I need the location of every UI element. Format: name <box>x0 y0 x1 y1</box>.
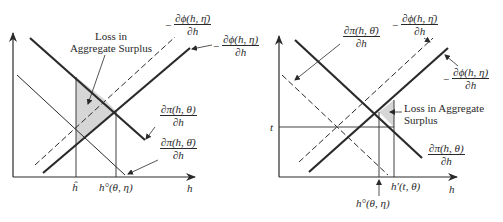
left-tick-h-opt: h°(θ, η) <box>99 181 133 193</box>
right-curve-pi-theta-bar <box>282 75 388 175</box>
right-curve-phi-eta-bar <box>299 38 433 162</box>
left-pi-theta-bar-arrow <box>128 160 158 174</box>
left-loss-annotation-line2: Aggregate Surplus <box>66 42 156 54</box>
right-tick-h-prime: h′(t, θ) <box>391 180 420 192</box>
minus-sign: − <box>165 19 171 31</box>
left-label-phi-eta-bar: − ∂ϕ(h, η̄) ∂h <box>165 12 211 37</box>
right-label-phi-eta: − ∂ϕ(h, η) ∂h <box>443 66 489 91</box>
numerator: ∂π(h, θ) <box>160 103 197 116</box>
numerator: ∂π(h, θ̄) <box>160 136 197 149</box>
left-curve-pi-theta-bar <box>17 75 125 175</box>
right-tick-h-opt: h°(θ, η) <box>356 197 390 209</box>
right-phi-eta-arrow <box>445 55 458 66</box>
denominator: ∂h <box>173 149 184 161</box>
numerator: ∂ϕ(h, η) <box>222 33 259 46</box>
left-x-axis-label: h <box>187 182 193 194</box>
numerator: ∂ϕ(h, η̄) <box>401 12 438 25</box>
denominator: ∂h <box>414 25 425 37</box>
minus-sign: − <box>392 19 398 31</box>
right-loss-annotation: Loss in Aggregate Surplus <box>404 102 484 126</box>
right-loss-annotation-line2: Surplus <box>404 114 484 126</box>
numerator: ∂ϕ(h, η̄) <box>174 12 211 25</box>
denominator: ∂h <box>187 25 198 37</box>
denominator: ∂h <box>173 116 184 128</box>
left-label-pi-theta: ∂π(h, θ) ∂h <box>160 103 197 128</box>
denominator: ∂h <box>235 46 246 58</box>
right-label-pi-theta-bar: ∂π(h, θ̄) ∂h <box>343 24 380 49</box>
numerator: ∂π(h, θ) <box>428 142 465 155</box>
minus-sign: − <box>443 73 449 85</box>
right-loss-annotation-line1: Loss in Aggregate <box>404 102 484 114</box>
left-label-pi-theta-bar: ∂π(h, θ̄) ∂h <box>160 136 197 161</box>
denominator: ∂h <box>465 79 476 91</box>
left-pi-theta-arrow <box>146 127 155 139</box>
left-loss-annotation-line1: Loss in <box>66 30 156 42</box>
numerator: ∂ϕ(h, η) <box>452 66 489 79</box>
left-phi-eta-arrow <box>192 45 212 49</box>
left-loss-annotation: Loss in Aggregate Surplus <box>66 30 156 54</box>
right-phi-eta-bar-arrow <box>424 38 430 42</box>
left-tick-h-hat: ĥ <box>72 181 78 193</box>
right-tick-t: t <box>270 121 273 133</box>
denominator: ∂h <box>441 155 452 167</box>
denominator: ∂h <box>356 37 367 49</box>
minus-sign: − <box>213 40 219 52</box>
right-curve-pi-theta <box>295 40 422 158</box>
right-x-axis-label: h <box>449 183 455 195</box>
numerator: ∂π(h, θ̄) <box>343 24 380 37</box>
left-label-phi-eta: − ∂ϕ(h, η) ∂h <box>213 33 259 58</box>
right-label-pi-theta: ∂π(h, θ) ∂h <box>428 142 465 167</box>
right-label-phi-eta-bar: − ∂ϕ(h, η̄) ∂h <box>392 12 438 37</box>
